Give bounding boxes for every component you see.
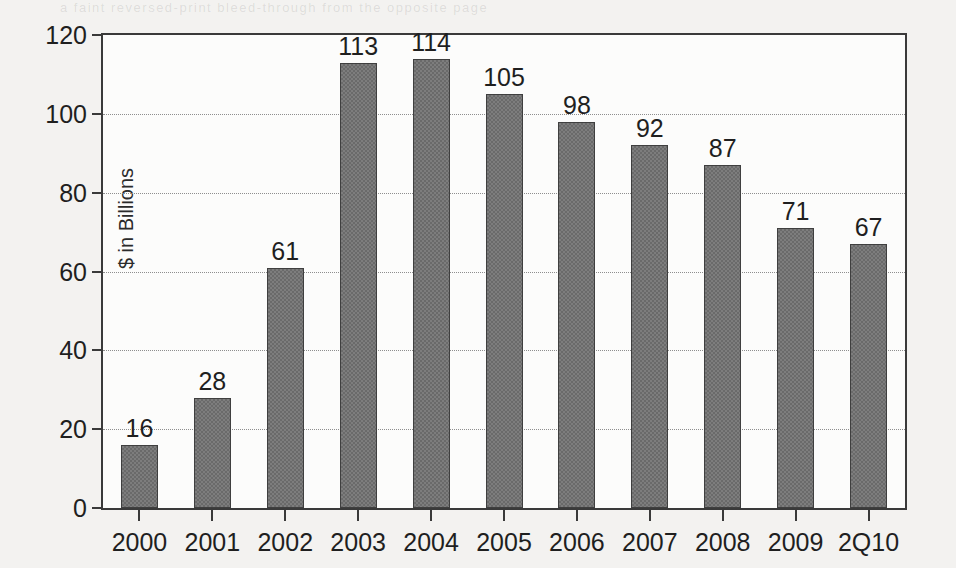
bar: 71: [777, 228, 814, 508]
y-axis-tick-label: 80: [59, 178, 87, 207]
x-axis-tick-mark: [357, 508, 359, 521]
x-axis-tick-label: 2002: [257, 528, 313, 557]
y-axis-tick-mark: [92, 192, 103, 194]
bar: 92: [631, 145, 668, 508]
bar: 114: [413, 59, 450, 508]
x-axis-tick-mark: [430, 508, 432, 521]
x-axis-tick-label: 2000: [112, 528, 168, 557]
y-axis-title: $ in Billions: [115, 134, 138, 304]
y-axis-tick-mark: [92, 349, 103, 351]
x-axis-tick-label: 2006: [549, 528, 605, 557]
bar-value-label: 71: [782, 197, 810, 226]
y-axis-tick-mark: [92, 271, 103, 273]
bar: 113: [340, 63, 377, 508]
x-axis-tick-mark: [211, 508, 213, 521]
x-axis-tick-mark: [649, 508, 651, 521]
y-axis-tick-mark: [92, 428, 103, 430]
bar: 16: [121, 445, 158, 508]
x-axis-tick-mark: [795, 508, 797, 521]
y-axis-tick-label: 120: [45, 21, 87, 50]
x-axis-tick-label: 2003: [330, 528, 386, 557]
bar: 28: [194, 398, 231, 508]
x-axis-tick-mark: [503, 508, 505, 521]
x-axis-tick-mark: [576, 508, 578, 521]
bar: 67: [850, 244, 887, 508]
bar-value-label: 98: [563, 91, 591, 120]
x-axis-tick-label: 2009: [768, 528, 824, 557]
plot-area: $ in Billions 02040608010012016200028200…: [101, 33, 907, 510]
x-axis-tick-mark: [722, 508, 724, 521]
bar-chart-figure: $ in Billions 02040608010012016200028200…: [0, 0, 956, 568]
bar: 105: [486, 94, 523, 508]
bar-value-label: 114: [411, 28, 451, 57]
bar: 87: [704, 165, 741, 508]
x-axis-tick-label: 2007: [622, 528, 678, 557]
bar-value-label: 28: [198, 367, 226, 396]
y-axis-tick-label: 20: [59, 415, 87, 444]
bar-value-label: 105: [483, 63, 525, 92]
x-axis-tick-label: 2Q10: [838, 528, 899, 557]
y-axis-tick-label: 0: [73, 494, 87, 523]
bar: 61: [267, 268, 304, 508]
x-axis-tick-label: 2005: [476, 528, 532, 557]
y-axis-tick-label: 40: [59, 336, 87, 365]
y-axis-tick-mark: [92, 34, 103, 36]
bar-value-label: 92: [636, 114, 664, 143]
x-axis-tick-label: 2004: [403, 528, 459, 557]
bar-value-label: 87: [709, 134, 737, 163]
x-axis-tick-label: 2008: [695, 528, 751, 557]
x-axis-tick-mark: [868, 508, 870, 521]
bar-value-label: 61: [271, 237, 299, 266]
y-axis-tick-mark: [92, 113, 103, 115]
bar-value-label: 67: [855, 213, 883, 242]
y-axis-tick-label: 60: [59, 257, 87, 286]
bar: 98: [558, 122, 595, 508]
bar-value-label: 113: [338, 32, 378, 61]
x-axis-tick-label: 2001: [185, 528, 241, 557]
y-axis-tick-label: 100: [45, 99, 87, 128]
bar-value-label: 16: [126, 414, 154, 443]
x-axis-tick-mark: [138, 508, 140, 521]
y-axis-tick-mark: [92, 507, 103, 509]
x-axis-tick-mark: [284, 508, 286, 521]
